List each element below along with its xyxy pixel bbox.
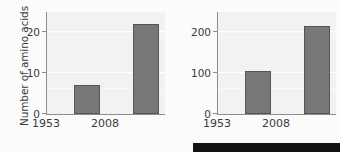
bar-left-2008 (133, 24, 159, 114)
x-tick-label-left-1: 2008 (91, 117, 119, 130)
y-tick-mark-right-2 (213, 31, 218, 32)
y-tick-mark-right-0 (213, 113, 218, 114)
x-tick-label-right-0: 1953 (203, 117, 231, 130)
y-axis-title-left: Number of amino acids (16, 0, 32, 132)
y-tick-mark-left-0 (42, 113, 47, 114)
x-tick-label-right-1: 2008 (262, 117, 290, 130)
bar-left-1953 (74, 85, 100, 114)
bottom-black-strip (193, 143, 340, 152)
y-tick-label-left-2: 20 (27, 26, 40, 38)
bar-right-2008 (304, 26, 330, 114)
y-tick-label-left-1: 10 (27, 67, 40, 79)
y-tick-mark-right-1 (213, 72, 218, 73)
x-tick-label-left-0: 1953 (32, 117, 60, 130)
plot-area-right: 0100200 (217, 12, 336, 115)
y-tick-mark-left-2 (42, 31, 47, 32)
chart-panel-amino-acid-mass: Mass of amino acids (mg) 0100200 1953 20… (170, 0, 340, 140)
y-tick-label-right-1: 100 (191, 67, 211, 79)
plot-area-left: 01020 (46, 12, 165, 115)
chart-panel-amino-acid-count: Number of amino acids 01020 1953 2008 (0, 0, 170, 140)
two-panel-bar-figure: Number of amino acids 01020 1953 2008 Ma… (0, 0, 340, 152)
y-tick-mark-left-1 (42, 72, 47, 73)
bar-right-1953 (245, 71, 271, 114)
y-tick-label-right-2: 200 (191, 26, 211, 38)
